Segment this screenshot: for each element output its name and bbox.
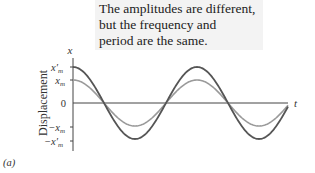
displacement-plot: x t Displacement x′m xm 0 −xm −x′m (a) <box>0 0 315 173</box>
tick-label-xprime-m: x′m <box>50 62 63 75</box>
y-axis-symbol: x <box>67 44 73 56</box>
t-axis-symbol: t <box>294 97 298 109</box>
tick-label-neg-x-m: −xm <box>48 122 65 135</box>
tick-label-neg-xprime-m: −x′m <box>44 136 63 149</box>
figure-label: (a) <box>3 157 16 169</box>
tick-label-x-m: xm <box>54 75 65 88</box>
tick-label-zero: 0 <box>61 98 66 109</box>
